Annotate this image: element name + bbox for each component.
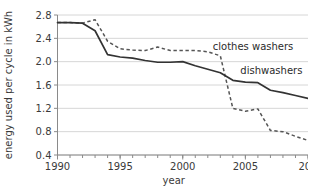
x-tick-label: 2000 <box>170 161 195 172</box>
y-tick-label: 2.0 <box>36 56 52 67</box>
chart-canvas: 0.40.81.21.62.02.42.8 199019952000200520… <box>0 0 308 187</box>
y-tick-label: 0.8 <box>36 126 52 137</box>
x-axis-tick-labels: 1990199520002005201 <box>45 161 308 172</box>
y-axis-tick-labels: 0.40.81.21.62.02.42.8 <box>36 10 52 161</box>
y-tick-label: 1.2 <box>36 103 52 114</box>
gridlines-group <box>58 15 309 155</box>
y-axis-title: energy used per cycle in kWh <box>3 11 14 159</box>
x-axis-title: year <box>163 175 186 186</box>
x-tick-label: 201 <box>298 161 308 172</box>
y-tick-label: 1.6 <box>36 80 52 91</box>
y-axis-tick-marks <box>54 15 58 155</box>
y-tick-label: 2.4 <box>36 33 52 44</box>
series-line-dishwashers <box>58 23 309 99</box>
series-line-clothes-washers <box>58 20 309 141</box>
series-label-dishwashers: dishwashers <box>240 65 302 76</box>
series-label-clothes-washers: clothes washers <box>213 41 294 52</box>
x-tick-label: 2005 <box>233 161 258 172</box>
energy-per-cycle-line-chart: 0.40.81.21.62.02.42.8 199019952000200520… <box>0 0 308 187</box>
x-tick-label: 1995 <box>107 161 132 172</box>
y-tick-label: 0.4 <box>36 150 52 161</box>
y-tick-label: 2.8 <box>36 10 52 21</box>
x-tick-label: 1990 <box>45 161 70 172</box>
